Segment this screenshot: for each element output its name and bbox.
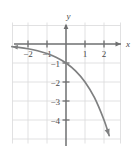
- x-tick-label: 1: [83, 49, 88, 59]
- coordinate-plane-graph: −2 −1 1 2 −1 −2 −3 −4 x y: [0, 0, 137, 155]
- y-tick-label: −2: [50, 78, 60, 88]
- graph-figure: −2 −1 1 2 −1 −2 −3 −4 x y: [0, 0, 137, 155]
- x-axis-label: x: [125, 39, 130, 49]
- y-tick-label: −1: [50, 59, 60, 69]
- figure-background: [0, 0, 137, 155]
- y-tick-label: −3: [50, 97, 60, 107]
- y-tick-label: −4: [50, 116, 60, 126]
- x-tick-label: 2: [102, 49, 107, 59]
- y-axis-label: y: [66, 11, 71, 21]
